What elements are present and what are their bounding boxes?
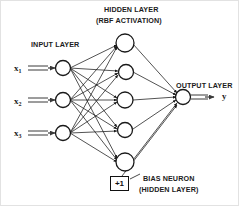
- input-layer-title: INPUT LAYER: [31, 40, 79, 49]
- hidden-neuron-5: [116, 153, 134, 171]
- output-layer-title: OUTPUT LAYER: [176, 81, 232, 90]
- input-neuron-x1: [56, 61, 71, 76]
- output-label-y: y: [222, 91, 227, 101]
- input-neuron-x2: [56, 93, 71, 108]
- output-neuron: [176, 90, 191, 105]
- input-neurons: [56, 61, 71, 141]
- bias-neuron-title-line2: (HIDDEN LAYER): [139, 185, 198, 194]
- diagram-canvas: HIDDEN LAYER (RBF ACTIVATION) INPUT LAYE…: [0, 0, 240, 207]
- bias-neuron-title-line1: BIAS NEURON: [143, 174, 194, 183]
- output-arrow: [191, 95, 214, 99]
- hidden-neurons: [116, 34, 134, 171]
- input-label-x3: x3: [14, 128, 22, 138]
- hidden-layer-title-line1: HIDDEN LAYER: [104, 5, 158, 14]
- input-label-x1: x1: [14, 63, 22, 73]
- input-feed-arrows: [28, 66, 55, 135]
- hidden-neuron-4: [118, 123, 133, 138]
- input-neuron-x3: [56, 126, 71, 141]
- bias-leader-line: [130, 174, 140, 179]
- hidden-neuron-3: [117, 92, 133, 108]
- bias-neuron-box: +1: [110, 176, 129, 191]
- input-label-x2: x2: [14, 96, 22, 106]
- input-hidden-connections: [70, 45, 118, 162]
- hidden-output-connections: [133, 44, 177, 160]
- hidden-neuron-1: [116, 34, 134, 52]
- hidden-neuron-2: [119, 65, 134, 80]
- hidden-layer-title-line2: (RBF ACTIVATION): [96, 16, 162, 25]
